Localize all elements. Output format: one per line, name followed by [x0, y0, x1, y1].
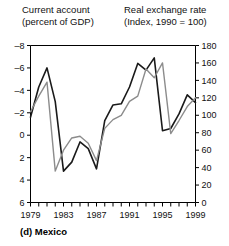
svg-text:100: 100 — [202, 110, 217, 120]
axis-frame — [31, 46, 196, 203]
svg-text:–8: –8 — [14, 41, 24, 51]
svg-text:2: 2 — [19, 153, 24, 163]
svg-text:20: 20 — [202, 180, 212, 190]
svg-text:1987: 1987 — [86, 210, 106, 220]
right-tick-labels: 020406080100120140160180 — [202, 41, 217, 208]
svg-text:–6: –6 — [14, 63, 24, 73]
svg-text:6: 6 — [19, 198, 24, 208]
svg-text:1983: 1983 — [53, 210, 73, 220]
svg-text:140: 140 — [202, 76, 217, 86]
svg-text:80: 80 — [202, 128, 212, 138]
svg-text:60: 60 — [202, 145, 212, 155]
svg-text:180: 180 — [202, 41, 217, 51]
series-line-real-exchange-rate — [31, 63, 196, 171]
svg-text:–4: –4 — [14, 86, 24, 96]
svg-text:1999: 1999 — [185, 210, 205, 220]
svg-text:120: 120 — [202, 93, 217, 103]
line-chart-svg: –8–6–4–20246 020406080100120140160180 19… — [0, 0, 229, 246]
svg-text:0: 0 — [202, 198, 207, 208]
svg-text:1991: 1991 — [119, 210, 139, 220]
svg-text:40: 40 — [202, 163, 212, 173]
svg-text:0: 0 — [19, 130, 24, 140]
figure-panel-mexico: Current account (percent of GDP) Real ex… — [0, 0, 229, 246]
left-tick-labels: –8–6–4–20246 — [14, 41, 24, 208]
svg-text:4: 4 — [19, 175, 24, 185]
svg-text:1979: 1979 — [20, 210, 40, 220]
series-line-current-account — [31, 58, 196, 171]
data-series-group — [31, 58, 196, 171]
svg-text:160: 160 — [202, 58, 217, 68]
svg-text:–2: –2 — [14, 108, 24, 118]
x-tick-labels: 197919831987199119951999 — [20, 210, 205, 220]
axis-ticks — [27, 46, 199, 207]
svg-text:1995: 1995 — [152, 210, 172, 220]
figure-caption: (d) Mexico — [20, 226, 67, 237]
chart-plot-area: –8–6–4–20246 020406080100120140160180 19… — [0, 0, 229, 246]
